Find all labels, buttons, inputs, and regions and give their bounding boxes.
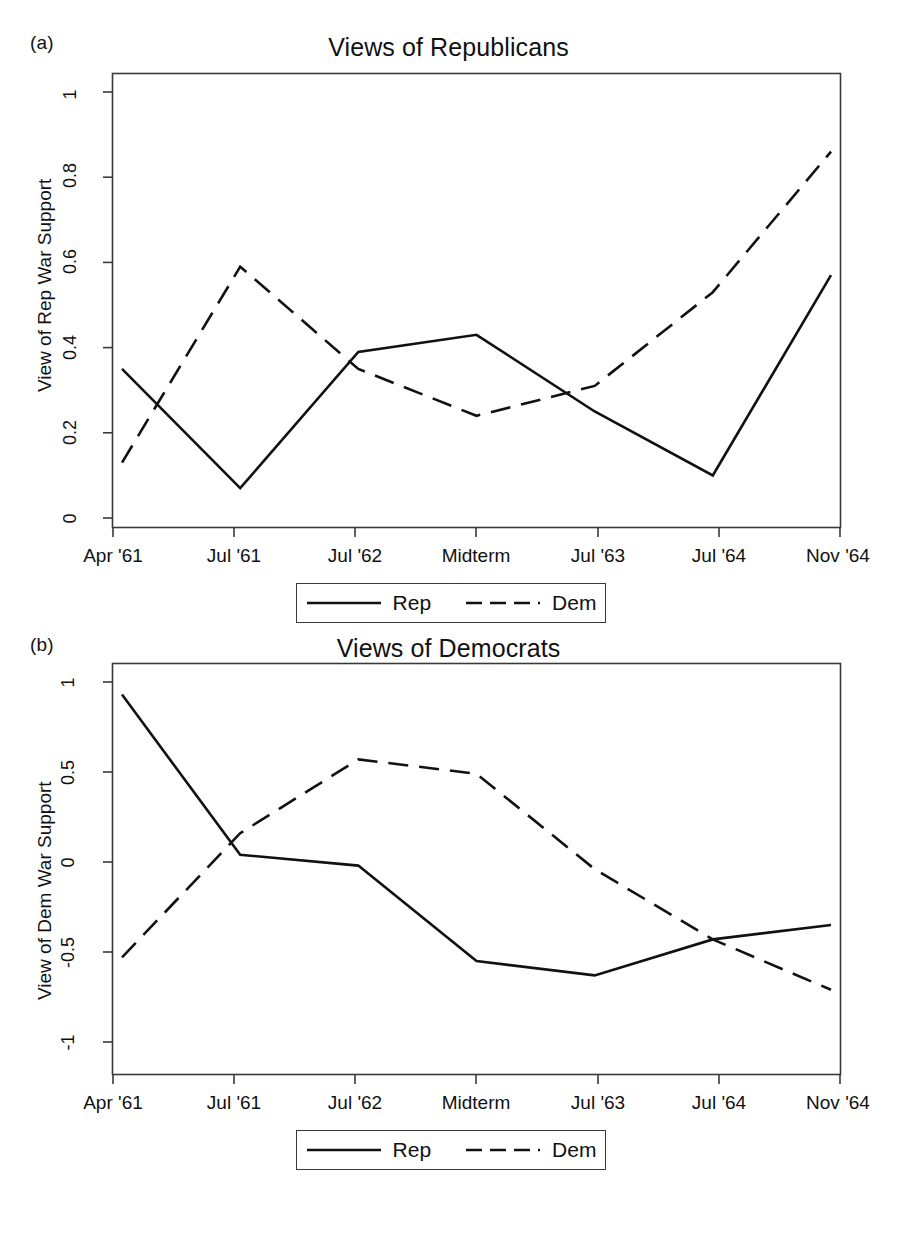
figure-root: (a) Views of Republicans View of Rep War… xyxy=(0,0,897,1238)
x-tick-label-b-3: Midterm xyxy=(442,1092,511,1114)
x-tick-label-a-4: Jul '63 xyxy=(571,545,625,567)
x-tick-label-a-2: Jul '62 xyxy=(328,545,382,567)
legend-entry-dem-a: Dem xyxy=(465,591,596,615)
x-tick-label-b-2: Jul '62 xyxy=(328,1092,382,1114)
legend-b: Rep Dem xyxy=(296,1130,606,1170)
legend-swatch-dashed-b xyxy=(465,1145,541,1155)
x-tick-label-b-1: Jul '61 xyxy=(207,1092,261,1114)
panel-views-of-republicans: (a) Views of Republicans View of Rep War… xyxy=(0,0,897,619)
x-tick-label-b-6: Nov '64 xyxy=(806,1092,870,1114)
series-line-rep-a xyxy=(122,275,831,488)
legend-label-dem-a: Dem xyxy=(552,591,596,615)
plot-frame-a xyxy=(113,74,841,528)
x-tick-label-a-0: Apr '61 xyxy=(83,545,143,567)
legend-label-rep-a: Rep xyxy=(393,591,432,615)
plot-area-a xyxy=(0,0,897,619)
series-line-dem-b xyxy=(122,759,831,989)
y-ticks-a xyxy=(103,92,113,518)
legend-swatch-solid-b xyxy=(306,1145,382,1155)
x-tick-label-a-3: Midterm xyxy=(442,545,511,567)
x-tick-label-b-5: Jul '64 xyxy=(692,1092,746,1114)
plot-frame-b xyxy=(113,664,841,1075)
legend-label-rep-b: Rep xyxy=(393,1138,432,1162)
x-ticks-b xyxy=(113,1075,840,1085)
x-tick-label-a-1: Jul '61 xyxy=(207,545,261,567)
legend-entry-rep-b: Rep xyxy=(306,1138,432,1162)
series-line-rep-b xyxy=(122,695,831,976)
series-line-dem-a xyxy=(122,152,831,463)
x-tick-label-b-0: Apr '61 xyxy=(83,1092,143,1114)
panel-views-of-democrats: (b) Views of Democrats View of Dem War S… xyxy=(0,619,897,1238)
legend-a: Rep Dem xyxy=(296,583,606,623)
legend-label-dem-b: Dem xyxy=(552,1138,596,1162)
x-tick-label-a-5: Jul '64 xyxy=(692,545,746,567)
legend-swatch-dashed-a xyxy=(465,598,541,608)
legend-entry-rep-a: Rep xyxy=(306,591,432,615)
x-ticks-a xyxy=(113,528,840,538)
legend-swatch-solid-a xyxy=(306,598,382,608)
x-tick-label-a-6: Nov '64 xyxy=(806,545,870,567)
y-ticks-b xyxy=(103,682,113,1042)
legend-entry-dem-b: Dem xyxy=(465,1138,596,1162)
x-tick-label-b-4: Jul '63 xyxy=(571,1092,625,1114)
